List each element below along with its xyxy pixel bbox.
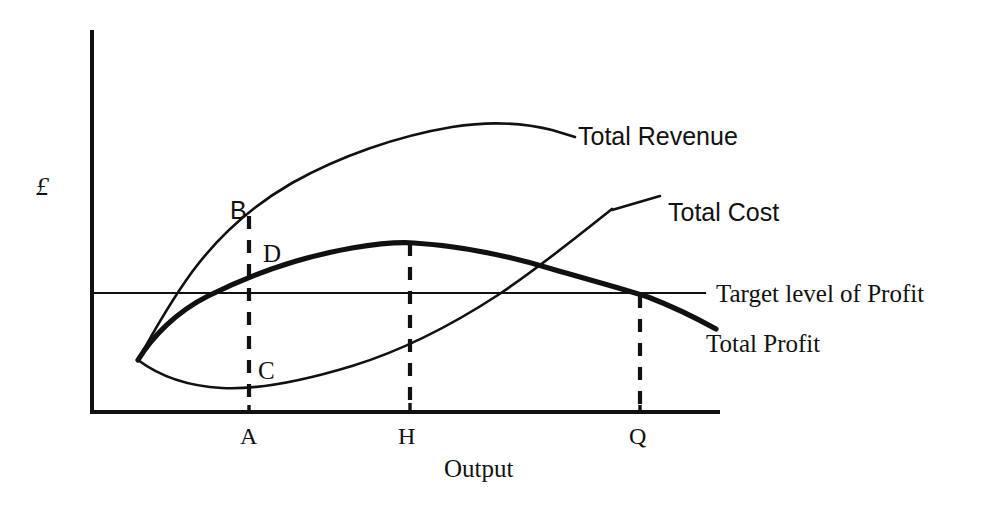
series-label-total-profit: Total Profit [706, 331, 820, 356]
y-axis-label: £ [36, 174, 49, 200]
series-label-total-revenue: Total Revenue [578, 124, 738, 149]
chart-canvas [0, 0, 985, 514]
total-cost-leader-line [612, 196, 660, 210]
series-label-target-level-of-profit: Target level of Profit [716, 281, 924, 306]
total-revenue-curve [138, 123, 575, 360]
x-tick-label-a: A [240, 424, 257, 448]
x-axis-label: Output [444, 456, 513, 481]
x-tick-label-q: Q [629, 424, 646, 448]
point-label-b: B [230, 198, 247, 223]
total-cost-curve [138, 209, 612, 388]
total-profit-curve [138, 243, 716, 360]
x-tick-label-h: H [398, 424, 415, 448]
point-label-d: D [263, 241, 281, 266]
figure-root: £ Output A H Q B D C Total Revenue Total… [0, 0, 985, 514]
series-label-total-cost: Total Cost [668, 200, 779, 225]
point-label-c: C [258, 358, 275, 383]
